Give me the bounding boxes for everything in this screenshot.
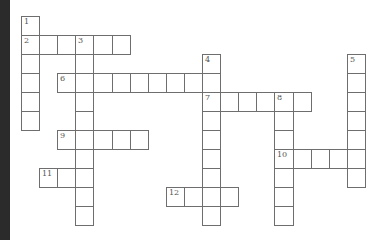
crossword-cell[interactable]	[75, 73, 94, 93]
crossword-cell[interactable]	[293, 92, 312, 112]
crossword-cell[interactable]	[274, 206, 294, 226]
clue-number: 11	[42, 170, 52, 178]
crossword-cell[interactable]	[347, 168, 366, 188]
crossword-cell[interactable]	[347, 149, 366, 169]
crossword-cell[interactable]	[202, 111, 221, 131]
crossword-cell[interactable]	[75, 168, 94, 188]
crossword-cell[interactable]: 6	[57, 73, 76, 93]
crossword-cell[interactable]: 5	[347, 54, 366, 74]
crossword-cell[interactable]	[112, 35, 131, 55]
clue-number: 4	[205, 56, 210, 64]
crossword-cell[interactable]	[75, 206, 94, 226]
crossword-cell[interactable]	[21, 73, 40, 93]
crossword-cell[interactable]	[75, 92, 94, 112]
crossword-cell[interactable]: 7	[202, 92, 221, 112]
crossword-cell[interactable]	[112, 73, 131, 93]
crossword-cell[interactable]	[184, 73, 203, 93]
crossword-cell[interactable]	[347, 73, 366, 93]
crossword-cell[interactable]	[202, 73, 221, 93]
clue-number: 10	[277, 151, 287, 159]
crossword-cell[interactable]	[21, 54, 40, 74]
clue-number: 5	[350, 56, 355, 64]
crossword-cell[interactable]	[347, 130, 366, 150]
crossword-cell[interactable]	[202, 149, 221, 169]
clue-number: 7	[205, 94, 210, 102]
crossword-cell[interactable]: 9	[57, 130, 76, 150]
crossword-cell[interactable]	[75, 111, 94, 131]
crossword-cell[interactable]: 1	[21, 16, 40, 36]
crossword-cell[interactable]: 11	[39, 168, 58, 188]
crossword-cell[interactable]	[21, 111, 40, 131]
crossword-cell[interactable]: 3	[75, 35, 94, 55]
clue-number: 6	[60, 75, 65, 83]
crossword-cell[interactable]	[130, 130, 149, 150]
crossword-cell[interactable]	[347, 92, 366, 112]
crossword-cell[interactable]	[202, 168, 221, 188]
crossword-cell[interactable]	[202, 187, 221, 207]
crossword-cell[interactable]	[202, 206, 221, 226]
crossword-cell[interactable]	[75, 149, 94, 169]
crossword-cell[interactable]	[93, 130, 113, 150]
clue-number: 9	[60, 132, 65, 140]
crossword-cell[interactable]: 12	[166, 187, 185, 207]
crossword-cell[interactable]	[21, 92, 40, 112]
crossword-cell[interactable]	[75, 187, 94, 207]
crossword-cell[interactable]: 4	[202, 54, 221, 74]
crossword-cell[interactable]	[75, 54, 94, 74]
crossword-cell[interactable]	[274, 130, 294, 150]
crossword-cell[interactable]	[274, 168, 294, 188]
clue-number: 1	[24, 18, 29, 26]
crossword-cell[interactable]	[57, 168, 76, 188]
crossword-cell[interactable]	[256, 92, 275, 112]
crossword-cell[interactable]: 10	[274, 149, 294, 169]
crossword-cell[interactable]	[220, 187, 239, 207]
crossword-cell[interactable]	[112, 130, 131, 150]
crossword-cell[interactable]	[93, 73, 113, 93]
crossword-cell[interactable]	[347, 111, 366, 131]
clue-number: 8	[277, 94, 282, 102]
clue-number: 2	[24, 37, 29, 45]
crossword-cell[interactable]: 2	[21, 35, 40, 55]
crossword-cell[interactable]	[57, 35, 76, 55]
crossword-cell[interactable]	[75, 130, 94, 150]
crossword-cell[interactable]	[148, 73, 167, 93]
crossword-cell[interactable]	[274, 187, 294, 207]
crossword-cell[interactable]	[274, 111, 294, 131]
crossword-cell[interactable]	[39, 35, 58, 55]
crossword-cell[interactable]: 8	[274, 92, 294, 112]
crossword-cell[interactable]	[329, 149, 348, 169]
crossword-grid: 123475681091112	[0, 0, 379, 240]
crossword-cell[interactable]	[311, 149, 330, 169]
crossword-cell[interactable]	[238, 92, 257, 112]
crossword-cell[interactable]	[184, 187, 203, 207]
crossword-cell[interactable]	[93, 35, 113, 55]
clue-number: 3	[78, 37, 83, 45]
crossword-cell[interactable]	[220, 92, 239, 112]
crossword-cell[interactable]	[293, 149, 312, 169]
crossword-cell[interactable]	[166, 73, 185, 93]
clue-number: 12	[169, 189, 179, 197]
crossword-cell[interactable]	[130, 73, 149, 93]
crossword-cell[interactable]	[202, 130, 221, 150]
